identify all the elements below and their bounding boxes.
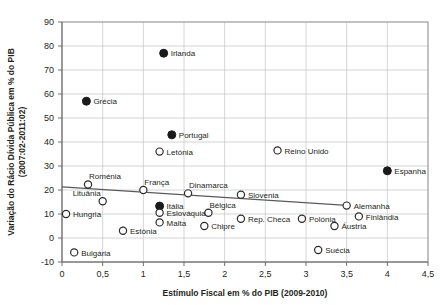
data-point-marker <box>383 167 391 175</box>
data-point-marker <box>71 249 78 256</box>
data-point-label: Polónia <box>309 215 336 224</box>
data-point-label: Estónia <box>130 227 157 236</box>
data-point-label: Slovenia <box>248 191 279 200</box>
x-tick-label: 4,5 <box>422 269 435 279</box>
y-tick-label: 50 <box>44 113 54 123</box>
y-axis-title-line2: (2007:02-2011:02) <box>17 107 27 178</box>
data-point-label: Áustria <box>341 222 366 231</box>
data-point-label: Roménia <box>89 172 122 181</box>
data-point-label: França <box>144 178 169 187</box>
y-axis-tick-labels: -100102030405060708090 <box>41 17 54 267</box>
data-point-label: Grécia <box>93 97 117 106</box>
data-point-label: Letónia <box>167 148 194 157</box>
y-tick-label: 80 <box>44 41 54 51</box>
data-point-marker <box>84 181 91 188</box>
data-point-label: Portugal <box>179 131 209 140</box>
data-point-marker <box>99 198 106 205</box>
y-tick-label: 60 <box>44 89 54 99</box>
x-axis-title: Estímulo Fiscal em % do PIB (2009-2010) <box>163 288 328 298</box>
data-point-marker <box>237 191 244 198</box>
x-tick-label: 3 <box>303 269 308 279</box>
data-point-marker <box>156 219 163 226</box>
data-point-marker <box>315 246 322 253</box>
data-point-marker <box>119 227 126 234</box>
axis-titles: Estímulo Fiscal em % do PIB (2009-2010)V… <box>6 48 328 298</box>
y-tick-label: 30 <box>44 161 54 171</box>
x-tick-label: 1,5 <box>178 269 191 279</box>
data-point-marker <box>237 215 244 222</box>
data-point-label: Hungria <box>73 210 102 219</box>
axis-tickmarks <box>58 22 428 266</box>
data-point-label: Lituânia <box>73 189 102 198</box>
data-point-label: Espanha <box>394 167 426 176</box>
data-point-marker <box>62 210 69 217</box>
data-point-marker <box>274 147 281 154</box>
x-tick-label: 0 <box>59 269 64 279</box>
y-tick-label: -10 <box>41 257 54 267</box>
data-point-marker <box>156 209 163 216</box>
data-point-marker <box>205 209 212 216</box>
data-point-label: Bélgica <box>209 201 236 210</box>
x-tick-label: 4 <box>385 269 390 279</box>
data-point-label: Reino Unido <box>285 147 330 156</box>
data-point-marker <box>343 202 350 209</box>
y-tick-label: 90 <box>44 17 54 27</box>
data-point-label: Suécia <box>325 246 350 255</box>
gridlines <box>62 22 428 262</box>
data-point-marker <box>160 49 168 57</box>
x-tick-label: 1 <box>141 269 146 279</box>
data-point-label: Malta <box>167 219 187 228</box>
data-point-labels: IrlandaGréciaPortugalLetóniaReino UnidoE… <box>73 49 427 257</box>
data-point-label: Chipre <box>211 222 235 231</box>
data-point-label: Dinamarca <box>189 181 228 190</box>
data-point-label: Rep. Checa <box>248 215 291 224</box>
data-point-marker <box>82 97 90 105</box>
data-point-label: Finlândia <box>366 213 399 222</box>
data-point-marker <box>140 186 147 193</box>
data-point-label: Alemanha <box>354 202 391 211</box>
data-point-marker <box>201 222 208 229</box>
data-point-marker <box>168 131 176 139</box>
data-point-marker <box>184 190 191 197</box>
x-tick-label: 2,5 <box>259 269 272 279</box>
x-tick-label: 2 <box>222 269 227 279</box>
x-tick-label: 0,5 <box>96 269 109 279</box>
y-tick-label: 20 <box>44 185 54 195</box>
x-axis-tick-labels: 00,511,522,533,544,5 <box>59 269 434 279</box>
y-tick-label: 70 <box>44 65 54 75</box>
data-point-marker <box>355 213 362 220</box>
y-axis-title-line1: Variação do Rácio Dívida Pública em % do… <box>6 48 16 236</box>
data-point-label: Eslováquia <box>167 209 207 218</box>
y-tick-label: 40 <box>44 137 54 147</box>
y-tick-label: 0 <box>49 233 54 243</box>
scatter-chart: 00,511,522,533,544,5 -100102030405060708… <box>0 0 440 305</box>
data-point-label: Irlanda <box>171 49 196 58</box>
y-tick-label: 10 <box>44 209 54 219</box>
x-tick-label: 3,5 <box>340 269 353 279</box>
chart-canvas: 00,511,522,533,544,5 -100102030405060708… <box>0 0 440 305</box>
data-point-label: Bulgária <box>81 249 111 258</box>
data-point-marker <box>156 148 163 155</box>
data-point-marker <box>298 215 305 222</box>
